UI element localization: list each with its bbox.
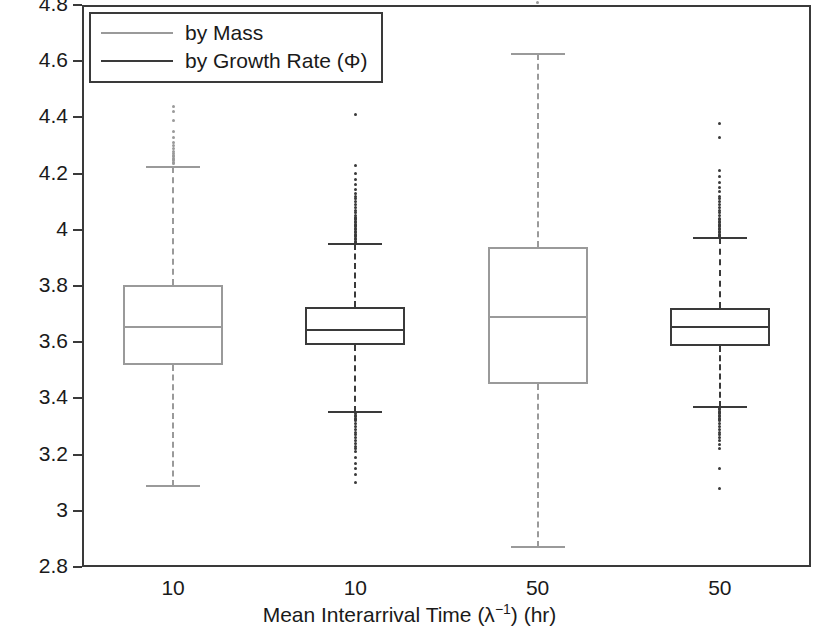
outlier-point	[536, 1, 539, 4]
x-axis-title-post: ) (hr)	[511, 603, 557, 626]
y-axis-tick-label: 4.4	[8, 104, 68, 128]
outlier-point	[718, 487, 721, 490]
y-axis-tick-label: 3.8	[8, 273, 68, 297]
y-axis-tick-label: 4.6	[8, 48, 68, 72]
legend-line-swatch	[101, 32, 173, 34]
outlier-point	[718, 439, 721, 442]
x-axis-title-exponent: −1	[495, 601, 511, 617]
outlier-point	[718, 443, 721, 446]
x-axis-title: Mean Interarrival Time (λ−1) (hr)	[0, 601, 819, 627]
x-axis-tick-label: 10	[295, 576, 415, 600]
y-axis-tick	[73, 454, 82, 456]
y-axis-tick	[73, 510, 82, 512]
median-line	[670, 326, 770, 328]
y-axis-tick	[73, 285, 82, 287]
legend-entry: by Growth Rate (Φ)	[101, 47, 367, 75]
legend-label: by Mass	[185, 21, 263, 45]
legend: by Massby Growth Rate (Φ)	[89, 12, 383, 83]
y-axis-tick-label: 2.8	[8, 554, 68, 578]
y-axis-tick-label: 4.8	[8, 0, 68, 16]
whisker-upper	[719, 238, 721, 308]
y-axis-tick-label: 4.2	[8, 161, 68, 185]
outlier-point	[718, 190, 721, 193]
x-axis-tick-label: 10	[113, 576, 233, 600]
whisker-lower	[719, 346, 721, 406]
box-plot-group	[82, 5, 811, 567]
legend-line-swatch	[101, 60, 173, 62]
outlier-point	[718, 186, 721, 189]
outlier-point	[718, 122, 721, 125]
y-axis-tick	[73, 341, 82, 343]
y-axis-tick	[73, 566, 82, 568]
y-axis-tick-label: 3.4	[8, 385, 68, 409]
y-axis-tick	[73, 173, 82, 175]
legend-label: by Growth Rate (Φ)	[185, 49, 367, 73]
y-axis-tick-label: 4	[8, 217, 68, 241]
y-axis-tick	[73, 60, 82, 62]
y-axis-tick-label: 3.2	[8, 442, 68, 466]
outlier-point	[718, 181, 721, 184]
x-axis-tick-label: 50	[478, 576, 598, 600]
x-axis-tick-label: 50	[660, 576, 780, 600]
boxplot-figure: Dominant Proliferation Commitment (η) 4.…	[0, 0, 819, 634]
outlier-point	[718, 467, 721, 470]
outlier-point	[718, 136, 721, 139]
y-axis-tick-label: 3.6	[8, 329, 68, 353]
legend-entry: by Mass	[101, 19, 367, 47]
x-axis-title-pre: Mean Interarrival Time (λ	[263, 603, 495, 626]
y-axis-tick	[73, 116, 82, 118]
y-axis-tick	[73, 229, 82, 231]
y-axis-tick	[73, 397, 82, 399]
outlier-point	[718, 447, 721, 450]
y-axis-tick-label: 3	[8, 498, 68, 522]
y-axis-tick	[73, 4, 82, 6]
outlier-point	[718, 175, 721, 178]
plot-area	[82, 5, 811, 567]
outlier-point	[718, 169, 721, 172]
